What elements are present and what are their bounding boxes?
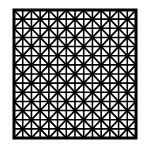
grid-lines — [14, 10, 136, 138]
lattice-pattern — [0, 0, 144, 149]
